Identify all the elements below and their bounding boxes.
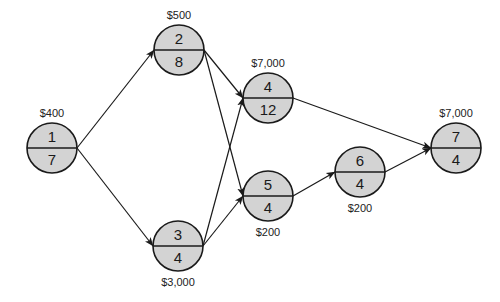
cost-label: $400 [40, 107, 64, 119]
activity-duration: 7 [48, 151, 56, 168]
edge-6-to-7 [385, 148, 431, 172]
edge-1-to-3 [77, 148, 153, 246]
activity-number: 6 [356, 152, 364, 169]
activity-number: 2 [175, 30, 183, 47]
activity-duration: 4 [174, 249, 182, 266]
activity-duration: 12 [260, 101, 277, 118]
nodes-layer: 17$40028$50034$3,000412$7,00054$20064$20… [27, 9, 481, 288]
activity-number: 1 [48, 128, 56, 145]
activity-duration: 4 [264, 199, 272, 216]
activity-number: 3 [174, 226, 182, 243]
activity-number: 4 [264, 78, 272, 95]
activity-number: 5 [264, 176, 272, 193]
node-2: 28$500 [154, 9, 204, 75]
edge-1-to-2 [77, 50, 154, 148]
activity-number: 7 [452, 128, 460, 145]
edge-5-to-6 [293, 172, 335, 196]
cost-label: $3,000 [161, 276, 195, 288]
edge-4-to-7 [293, 98, 431, 148]
edge-2-to-5 [204, 50, 243, 196]
cost-label: $500 [167, 9, 191, 21]
node-4: 412$7,000 [243, 57, 293, 123]
node-1: 17$400 [27, 107, 77, 173]
activity-duration: 4 [452, 151, 460, 168]
edge-3-to-5 [203, 196, 243, 246]
node-6: 64$200 [335, 147, 385, 214]
cost-label: $200 [348, 202, 372, 214]
cost-label: $200 [256, 226, 280, 238]
activity-duration: 4 [356, 175, 364, 192]
node-7: 74$7,000 [431, 107, 481, 173]
node-3: 34$3,000 [153, 221, 203, 288]
cost-label: $7,000 [251, 57, 285, 69]
cost-label: $7,000 [439, 107, 473, 119]
node-5: 54$200 [243, 171, 293, 238]
network-diagram: 17$40028$50034$3,000412$7,00054$20064$20… [0, 0, 500, 302]
activity-duration: 8 [175, 53, 183, 70]
